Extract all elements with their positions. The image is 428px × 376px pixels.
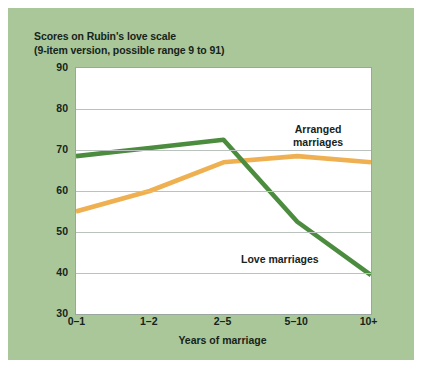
y-tick-label-70: 70 [38,143,68,155]
x-tick-label-0: 0–1 [68,315,86,327]
gridline-60 [76,191,371,192]
x-axis-title: Years of marriage [75,334,370,346]
x-tick-label-3: 5–10 [285,315,308,327]
gridline-70 [76,150,371,151]
y-tick-label-50: 50 [38,225,68,237]
plot-area [75,67,372,315]
y-tick-label-80: 80 [38,102,68,114]
y-tick-label-90: 90 [38,61,68,73]
chart-title-line-2: (9-item version, possible range 9 to 91) [34,44,354,58]
series-label-arranged-line-2: marriages [293,136,343,149]
x-axis: 0–11–22–55–1010+ [8,315,414,335]
x-tick-label-4: 10+ [360,315,378,327]
y-axis: 30405060708090 [34,8,68,360]
series-line-arranged-marriages [76,156,371,211]
chart-title-line-1: Scores on Rubin's love scale [34,30,354,44]
gridline-40 [76,273,371,274]
series-label-love-marriages: Love marriages [241,253,319,266]
chart-title: Scores on Rubin's love scale (9-item ver… [34,30,354,57]
y-tick-label-40: 40 [38,266,68,278]
x-tick-label-2: 2–5 [214,315,232,327]
series-label-arranged-marriages: Arranged marriages [293,123,343,149]
series-label-arranged-line-1: Arranged [293,123,343,136]
y-tick-label-60: 60 [38,184,68,196]
gridline-80 [76,109,371,110]
gridline-50 [76,232,371,233]
chart-figure: Scores on Rubin's love scale (9-item ver… [8,8,414,360]
x-tick-label-1: 1–2 [140,315,158,327]
